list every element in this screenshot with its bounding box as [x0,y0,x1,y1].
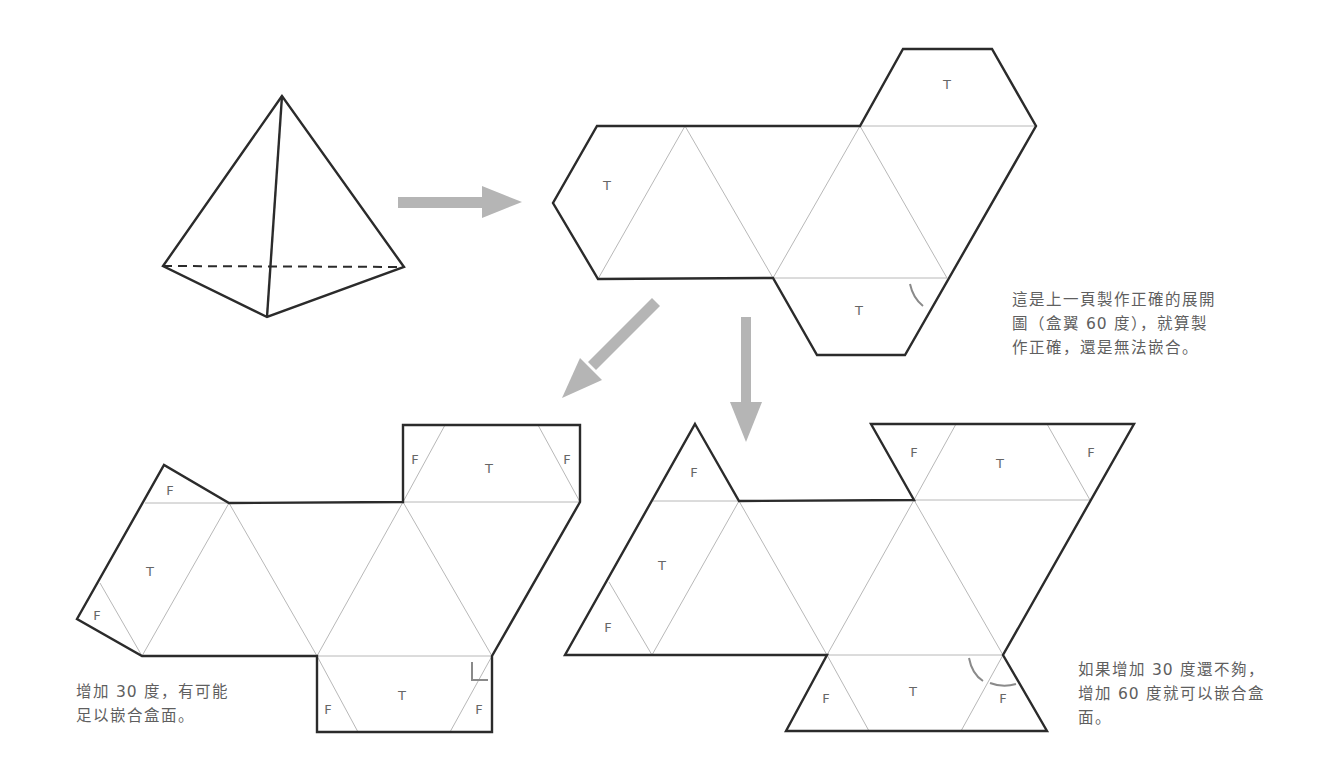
caption-line: 面。 [1078,706,1265,730]
tab-label: T [908,684,917,699]
flap-label: F [475,702,482,717]
flap-label: F [563,452,570,467]
flap-label: F [910,445,917,460]
tab-label: T [145,564,154,579]
tetrahedron-outline [163,96,404,317]
tab-label: T [602,178,611,193]
caption-line: 增加 60 度就可以嵌合盒 [1078,682,1265,706]
angle-arc [969,658,983,681]
caption-line: 圖（盒翼 60 度），就算製 [1012,312,1216,336]
flap-label: F [999,691,1006,706]
caption-line: 這是上一頁製作正確的展開 [1012,288,1216,312]
flap-label: F [166,483,173,498]
angle-arc [910,284,923,306]
tetrahedron-front-edge [267,96,282,317]
tab-label: T [397,688,406,703]
hidden-edge [163,266,404,267]
flap-label: F [324,702,331,717]
flap-label: F [411,452,418,467]
tab-label: T [942,77,951,92]
caption-line: 足以嵌合盒面。 [76,704,229,728]
arrow-down-icon [730,317,762,442]
flap-label: F [822,691,829,706]
caption-original-net: 這是上一頁製作正確的展開 圖（盒翼 60 度），就算製 作正確，還是無法嵌合。 [1012,288,1216,360]
net-plus-60deg: F T F F T F T F F [565,424,1134,731]
flap-label: F [93,608,100,623]
net-original-60deg: T T T [553,49,1036,355]
caption-plus-30deg: 增加 30 度，有可能 足以嵌合盒面。 [76,680,229,728]
tab-label: T [854,303,863,318]
flap-label: F [1087,445,1094,460]
caption-line: 增加 30 度，有可能 [76,680,229,704]
tab-label: T [995,456,1004,471]
angle-arc [990,683,1016,686]
tetrahedron-figure [163,96,404,317]
caption-line: 如果增加 30 度還不夠， [1078,658,1265,682]
arrow-right-icon [398,186,522,218]
arrow-down-left-icon [562,298,660,398]
caption-line: 作正確，還是無法嵌合。 [1012,336,1216,360]
tab-label: T [657,558,666,573]
tab-label: T [484,461,493,476]
flap-label: F [604,620,611,635]
caption-plus-60deg: 如果增加 30 度還不夠， 增加 60 度就可以嵌合盒 面。 [1078,658,1265,730]
flap-label: F [690,465,697,480]
